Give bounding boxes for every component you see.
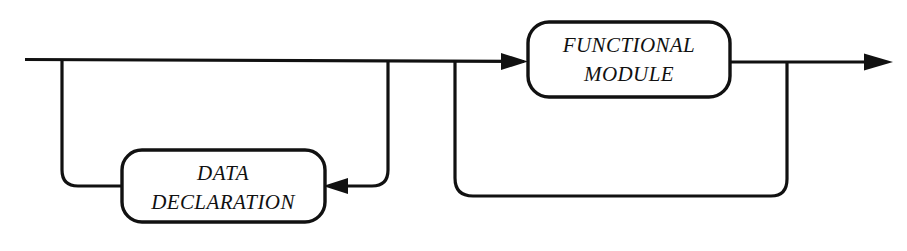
data-declaration-loop-left-branch xyxy=(62,60,122,186)
railroad-diagram-canvas: FUNCTIONAL MODULE DATA DECLARATION xyxy=(0,0,907,251)
functional-module-loop-right-branch xyxy=(770,62,787,196)
exit-arrowhead-icon xyxy=(864,54,893,71)
data-declaration-arrowhead-icon xyxy=(323,178,348,194)
functional-module-arrowhead-icon xyxy=(501,53,528,70)
data-declaration-label-line2: DECLARATION xyxy=(150,190,295,214)
main-entry-rail xyxy=(25,60,524,62)
functional-module-label-line1: FUNCTIONAL xyxy=(562,33,695,57)
functional-module-label-line2: MODULE xyxy=(583,62,674,86)
data-declaration-label-line1: DATA xyxy=(196,161,249,185)
railroad-diagram: FUNCTIONAL MODULE DATA DECLARATION xyxy=(0,0,907,251)
data-declaration-loop-right-branch xyxy=(336,61,388,186)
